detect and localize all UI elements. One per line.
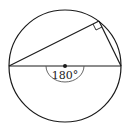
chord-left xyxy=(9,21,99,66)
angle-label: 180° xyxy=(52,69,79,82)
chord-right xyxy=(99,21,121,66)
center-point xyxy=(63,64,67,68)
semicircle-diagram: 180° xyxy=(0,0,129,135)
